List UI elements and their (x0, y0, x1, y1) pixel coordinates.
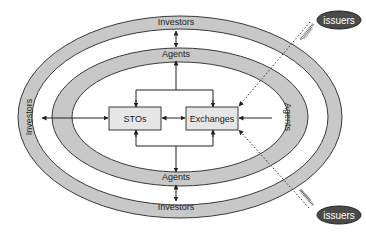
issuers-node-bottom: issuers (317, 206, 361, 224)
investors-label-top: Investors (158, 17, 195, 27)
investors-label-bottom: Investors (158, 202, 195, 212)
issuers-label-bottom: issuers (323, 210, 355, 221)
investors-label-left: Investors (24, 98, 34, 135)
agents-label-bottom: Agents (162, 172, 191, 182)
agents-label-top: Agents (162, 49, 191, 59)
stos-label: STOs (124, 114, 147, 124)
agents-label-right: Agents (283, 103, 293, 132)
securities-ecosystem-diagram: Investors Agents Agents Investors Invest… (0, 0, 366, 237)
exchanges-node: Exchanges (186, 107, 238, 130)
issuers-node-top: issuers (317, 11, 361, 29)
exchanges-label: Exchanges (190, 114, 235, 124)
issuers-label-top: issuers (323, 15, 355, 26)
stos-node: STOs (109, 107, 161, 130)
agents-ring (52, 48, 308, 186)
